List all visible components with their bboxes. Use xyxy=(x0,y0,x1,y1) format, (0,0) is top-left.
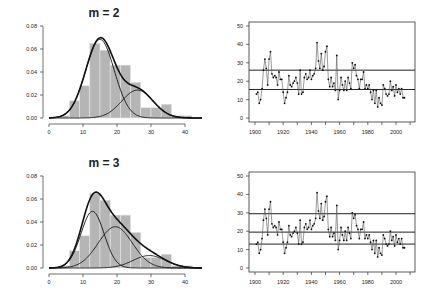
data-point xyxy=(287,91,289,93)
data-point xyxy=(257,241,259,243)
data-point xyxy=(333,82,335,84)
data-point xyxy=(277,84,279,86)
y-tick-label: 0 xyxy=(240,265,243,271)
data-point xyxy=(319,67,321,69)
data-point xyxy=(373,240,375,242)
data-point xyxy=(265,217,267,219)
data-point xyxy=(318,60,320,62)
data-point xyxy=(281,78,283,80)
data-point xyxy=(370,91,372,93)
data-point xyxy=(309,219,311,221)
data-point xyxy=(315,217,317,219)
data-point xyxy=(385,93,387,95)
data-point xyxy=(323,66,325,68)
x-tick-label: 20 xyxy=(114,279,120,285)
data-point xyxy=(267,234,269,236)
data-point xyxy=(346,90,348,92)
x-tick-label: 30 xyxy=(148,279,154,285)
data-point xyxy=(371,99,373,101)
data-point xyxy=(344,230,346,232)
data-point xyxy=(332,86,334,88)
data-point xyxy=(394,245,396,247)
data-point xyxy=(287,241,289,243)
timeseries-panel-m2: 01020304050190019201940196019802000 xyxy=(237,22,415,135)
y-tick-label: 0.04 xyxy=(26,219,37,225)
data-point xyxy=(291,86,293,88)
data-point xyxy=(285,97,287,99)
data-point xyxy=(329,236,331,238)
data-point xyxy=(319,217,321,219)
y-tick-label: 20 xyxy=(237,78,243,84)
y-tick-label: 30 xyxy=(237,210,243,216)
data-point xyxy=(298,93,300,95)
data-point xyxy=(380,252,382,254)
data-point xyxy=(388,243,390,245)
y-tick-label: 0.06 xyxy=(26,196,37,202)
histogram-bar xyxy=(90,193,100,268)
y-tick-label: 0 xyxy=(240,115,243,121)
y-tick-label: 0.08 xyxy=(26,23,37,29)
data-point xyxy=(368,234,370,236)
data-point xyxy=(358,238,360,240)
data-point xyxy=(350,238,352,240)
data-point xyxy=(387,245,389,247)
x-tick-label: 1940 xyxy=(305,129,317,135)
data-point xyxy=(392,86,394,88)
y-tick-label: 0.00 xyxy=(26,265,37,271)
data-point xyxy=(368,84,370,86)
data-point xyxy=(275,77,277,79)
data-point xyxy=(347,77,349,79)
y-tick-label: 10 xyxy=(237,97,243,103)
data-point xyxy=(398,238,400,240)
histogram-bar xyxy=(141,108,151,118)
data-point xyxy=(373,90,375,92)
data-point xyxy=(384,238,386,240)
data-point xyxy=(381,104,383,106)
x-axis: 190019201940196019802000 xyxy=(249,272,410,285)
y-tick-label: 10 xyxy=(237,247,243,253)
data-point xyxy=(308,227,310,229)
data-point xyxy=(323,216,325,218)
data-point xyxy=(302,91,304,93)
x-tick-label: 10 xyxy=(80,129,86,135)
figure: 0.000.020.040.060.08010203040 0102030405… xyxy=(0,0,434,302)
data-point xyxy=(320,53,322,55)
x-tick-label: 0 xyxy=(47,129,50,135)
data-point xyxy=(284,102,286,104)
data-point xyxy=(377,256,379,258)
data-point xyxy=(272,77,274,79)
data-point xyxy=(356,225,358,227)
data-point xyxy=(322,219,324,221)
data-point xyxy=(305,73,307,75)
x-tick-label: 1980 xyxy=(362,279,374,285)
data-point xyxy=(296,232,298,234)
data-point xyxy=(325,201,327,203)
x-tick-label: 2000 xyxy=(390,129,402,135)
data-point xyxy=(365,234,367,236)
data-point xyxy=(275,227,277,229)
data-point xyxy=(377,106,379,108)
data-point xyxy=(351,62,353,64)
x-tick-label: 1960 xyxy=(333,129,345,135)
data-point xyxy=(277,234,279,236)
data-point xyxy=(282,91,284,93)
data-point xyxy=(358,88,360,90)
data-point xyxy=(299,69,301,71)
data-point xyxy=(282,241,284,243)
histogram-bar xyxy=(151,108,161,118)
data-point xyxy=(299,219,301,221)
data-point xyxy=(315,67,317,69)
data-point xyxy=(378,247,380,249)
data-point xyxy=(374,252,376,254)
data-point xyxy=(316,192,318,194)
x-tick-label: 30 xyxy=(148,129,154,135)
data-point xyxy=(363,221,365,223)
data-point xyxy=(391,90,393,92)
data-point xyxy=(271,223,273,225)
y-tick-label: 0.02 xyxy=(26,92,37,98)
data-point xyxy=(294,80,296,82)
data-point xyxy=(391,240,393,242)
histogram-bars xyxy=(59,193,192,268)
data-point xyxy=(370,241,372,243)
data-point xyxy=(367,88,369,90)
